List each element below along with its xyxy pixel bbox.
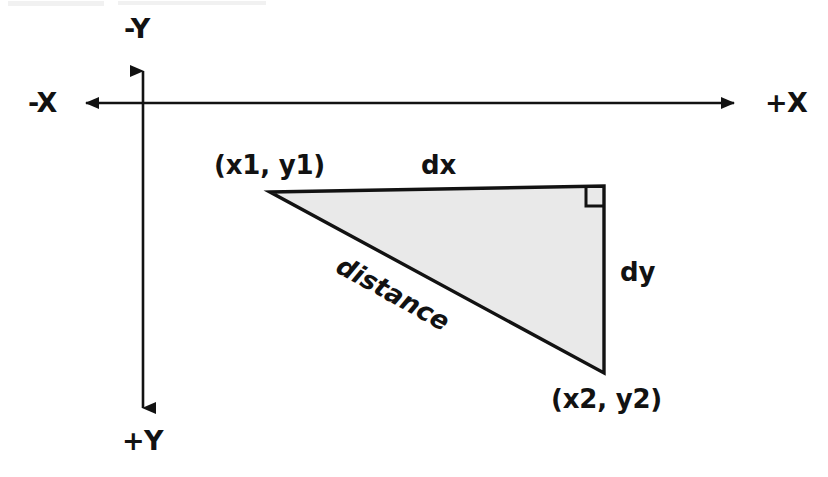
axis-label-negative-x: -X [28, 89, 57, 116]
axis-label-positive-x: +X [765, 89, 807, 116]
point-label-p2: (x2, y2) [551, 386, 662, 412]
edge-label-dx: dx [421, 152, 456, 178]
edge-label-dy: dy [620, 259, 655, 285]
axis-label-negative-y: -Y [124, 15, 150, 42]
coordinate-diagram [0, 0, 828, 477]
right-triangle [270, 186, 604, 373]
axis-label-positive-y: +Y [122, 427, 163, 454]
diagram-canvas: -X +X -Y +Y (x1, y1) dx dy distance (x2,… [0, 0, 828, 477]
point-label-p1: (x1, y1) [214, 152, 325, 178]
